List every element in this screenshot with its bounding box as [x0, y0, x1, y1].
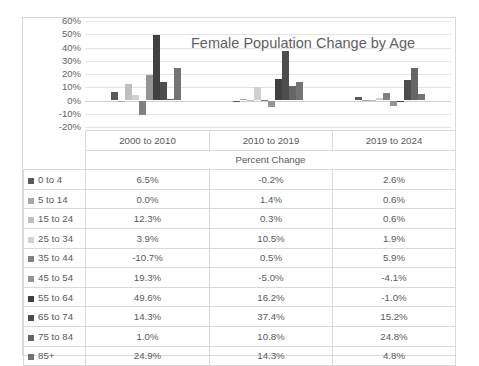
bar [289, 86, 296, 100]
y-axis-tick-label: 0% [67, 96, 81, 106]
column-header: 2010 to 2019 [210, 131, 333, 151]
bar [174, 68, 181, 101]
table-corner-cell [24, 131, 86, 151]
gridline [85, 127, 451, 128]
table-cell-value: -10.7% [86, 248, 210, 268]
table-cell-value: 14.3% [210, 346, 333, 366]
bar [411, 68, 418, 101]
bar [254, 87, 261, 101]
axis-title-percent-change: Percent Change [86, 150, 456, 170]
bar [132, 95, 139, 100]
table-corner-cell [24, 150, 86, 170]
legend-swatch-icon [28, 296, 34, 302]
table-cell-value: 24.8% [333, 326, 456, 346]
table-cell-value: -1.0% [333, 287, 456, 307]
legend-swatch-icon [28, 217, 34, 223]
legend-entry: 5 to 14 [24, 189, 86, 209]
table-cell-value: 6.5% [86, 170, 210, 190]
y-axis-tick-label: -10% [59, 109, 81, 119]
y-axis-tick-label: 20% [62, 69, 81, 79]
table-cell-value: 3.9% [86, 228, 210, 248]
legend-swatch-icon [28, 276, 34, 282]
legend-label: 15 to 24 [38, 213, 73, 224]
table-cell-value: 0.6% [333, 209, 456, 229]
table-cell-value: 16.2% [210, 287, 333, 307]
bar [362, 100, 369, 101]
legend-label: 75 to 84 [38, 331, 73, 342]
data-table: 2000 to 20102010 to 20192019 to 2024Perc… [23, 130, 456, 366]
table-cell-value: 1.0% [86, 326, 210, 346]
bar [111, 92, 118, 101]
table-cell-value: -5.0% [210, 268, 333, 288]
table-cell-value: 49.6% [86, 287, 210, 307]
legend-label: 45 to 54 [38, 272, 73, 283]
column-header: 2019 to 2024 [333, 131, 456, 151]
column-header: 2000 to 2010 [86, 131, 210, 151]
table-cell-value: 2.6% [333, 170, 456, 190]
legend-swatch-icon [28, 198, 34, 204]
bar [118, 101, 125, 102]
table-row: 85+24.9%14.3%4.8% [24, 346, 456, 366]
table-cell-value: 12.3% [86, 209, 210, 229]
table-cell-value: 0.3% [210, 209, 333, 229]
table-subheader-row: Percent Change [24, 150, 456, 170]
table-cell-value: 14.3% [86, 307, 210, 327]
legend-entry: 75 to 84 [24, 326, 86, 346]
bar [167, 99, 174, 100]
bar [404, 80, 411, 100]
y-axis-tick-label: 30% [62, 56, 81, 66]
table-cell-value: 0.6% [333, 189, 456, 209]
table-row: 75 to 841.0%10.8%24.8% [24, 326, 456, 346]
table-cell-value: -4.1% [333, 268, 456, 288]
table-header-row: 2000 to 20102010 to 20192019 to 2024 [24, 131, 456, 151]
bar [418, 94, 425, 100]
table-cell-value: 0.0% [86, 189, 210, 209]
legend-entry: 45 to 54 [24, 268, 86, 288]
bar [369, 100, 376, 101]
table-cell-value: 1.4% [210, 189, 333, 209]
legend-entry: 25 to 34 [24, 228, 86, 248]
table-row: 45 to 5419.3%-5.0%-4.1% [24, 268, 456, 288]
chart-title: Female Population Change by Age [191, 35, 415, 51]
table-cell-value: -0.2% [210, 170, 333, 190]
bar [261, 100, 268, 101]
bar [233, 101, 240, 102]
bar-chart: 60%50%40%30%20%10%0%-10%-20% Female Popu… [23, 18, 455, 130]
bar [390, 101, 397, 106]
bar [296, 82, 303, 101]
legend-label: 65 to 74 [38, 311, 73, 322]
legend-swatch-icon [28, 256, 34, 262]
table-cell-value: 10.5% [210, 228, 333, 248]
table-row: 55 to 6449.6%16.2%-1.0% [24, 287, 456, 307]
bar [397, 101, 404, 102]
table-cell-value: 19.3% [86, 268, 210, 288]
legend-entry: 15 to 24 [24, 209, 86, 229]
bar [160, 82, 167, 101]
legend-label: 0 to 4 [38, 174, 62, 185]
bar [355, 97, 362, 100]
table-row: 25 to 343.9%10.5%1.9% [24, 228, 456, 248]
bar [146, 75, 153, 101]
table-cell-value: 10.8% [210, 326, 333, 346]
legend-swatch-icon [28, 354, 34, 360]
bar [125, 84, 132, 100]
legend-label: 55 to 64 [38, 292, 73, 303]
legend-label: 5 to 14 [38, 194, 68, 205]
legend-label: 25 to 34 [38, 233, 73, 244]
y-axis-tick-label: 40% [62, 43, 81, 53]
legend-swatch-icon [28, 335, 34, 341]
table-cell-value: 15.2% [333, 307, 456, 327]
legend-entry: 85+ [24, 346, 86, 366]
bar [376, 98, 383, 101]
bar [275, 79, 282, 100]
legend-entry: 35 to 44 [24, 248, 86, 268]
table-cell-value: 0.5% [210, 248, 333, 268]
y-axis-tick-label: 50% [62, 30, 81, 40]
table-cell-value: 5.9% [333, 248, 456, 268]
y-axis-labels: 60%50%40%30%20%10%0%-10%-20% [31, 18, 81, 130]
bar [268, 101, 275, 108]
legend-entry: 65 to 74 [24, 307, 86, 327]
table-row: 5 to 140.0%1.4%0.6% [24, 189, 456, 209]
legend-entry: 55 to 64 [24, 287, 86, 307]
y-axis-tick-label: 10% [62, 83, 81, 93]
